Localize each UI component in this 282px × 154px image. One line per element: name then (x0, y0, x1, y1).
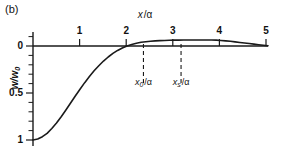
deflection-curve (33, 40, 268, 140)
y-axis-title-subscript: 0 (13, 67, 22, 71)
y-axis-title-denominator: w (9, 71, 20, 79)
y-axis-title: w/w0 (10, 67, 20, 89)
annotation-xs-variable: x (173, 77, 178, 87)
x-tick-label-5: 5 (263, 26, 269, 36)
y-axis-title-variable: w (9, 81, 20, 89)
y-tick-label-0: 0 (12, 41, 23, 51)
annotation-label-x0: x0/α (135, 78, 152, 87)
x-axis-title-unit: α (147, 9, 153, 20)
y-axis-title-slash: / (9, 79, 20, 82)
x-tick-label-2: 2 (123, 26, 129, 36)
y-axis-major-ticks (26, 46, 33, 140)
annotation-xs-unit: α (184, 77, 189, 87)
x-axis-title: x/α (138, 10, 153, 20)
plot-area (0, 0, 282, 154)
y-tick-label-0point5: 0.5 (0, 88, 23, 98)
x-tick-label-4: 4 (217, 26, 223, 36)
x-tick-label-3: 3 (170, 26, 176, 36)
annotation-x0-unit: α (147, 77, 152, 87)
x-tick-label-1: 1 (77, 26, 83, 36)
annotation-x0-variable: x (135, 77, 140, 87)
y-tick-label-1: 1 (12, 135, 23, 145)
annotation-xs-subscript: s (177, 81, 181, 88)
figure-panel-b: (b) (0, 0, 282, 154)
annotation-label-xs: xs/α (173, 78, 190, 87)
annotation-x0-subscript: 0 (139, 81, 143, 88)
